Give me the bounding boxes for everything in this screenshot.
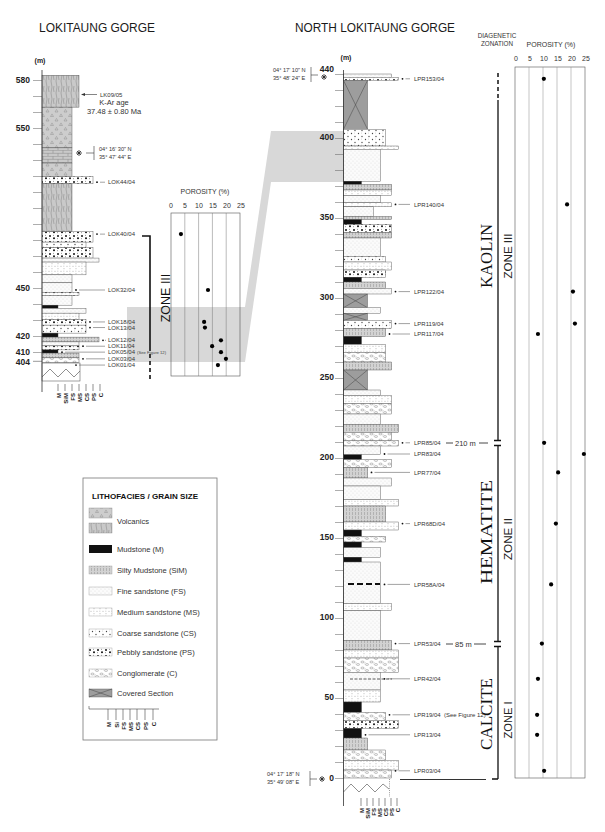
porosity-point [565, 202, 569, 206]
legend-label: Pebbly sandstone (PS) [117, 648, 195, 657]
bed-fine [344, 149, 381, 181]
volcanic-hatch-swatch [89, 523, 112, 533]
porosity-plot-frame [515, 67, 585, 778]
boundary-label: 210 m [455, 439, 476, 448]
grain-label: Si [114, 722, 120, 728]
zone-label-iii: ZONE III [502, 234, 514, 279]
sample-label: LPR13/04 [414, 732, 441, 738]
bed-mud [344, 277, 362, 282]
sample-label: LPR153/04 [414, 76, 445, 82]
asterisk-icon [76, 150, 82, 156]
porosity-point [571, 290, 575, 294]
grain-label: MS [77, 393, 83, 402]
legend-item-fine-sandstone: Fine sandstone (FS) [89, 587, 186, 596]
sample-label: LPR85/04 [414, 440, 441, 446]
depth-label: 440 [320, 64, 334, 74]
porosity-point [179, 232, 183, 236]
sample-point-icon [402, 78, 404, 80]
legend-title: LITHOFACIES / GRAIN SIZE [92, 492, 199, 501]
bed-mud [344, 220, 362, 225]
porosity-point [203, 325, 207, 329]
bed-volcanic-tri [42, 163, 72, 177]
bed-silty [344, 640, 392, 650]
bed-medium [344, 190, 392, 196]
legend-label: Volcanics [117, 517, 149, 526]
depth-label: 300 [320, 292, 334, 302]
bed-fine [42, 275, 72, 283]
volcanic-tri-swatch [89, 508, 112, 518]
bed-fine [344, 672, 381, 690]
sample-point-icon [89, 327, 91, 329]
medium-sandstone-swatch [89, 608, 112, 616]
asterisk-icon [319, 776, 325, 782]
silty-mudstone-swatch [89, 566, 112, 574]
longitude: 35° 48' 24" E [273, 75, 306, 81]
zone-boundary-85m: 85 m [446, 640, 486, 649]
bed-pebbly [42, 232, 93, 242]
legend-item-mudstone: Mudstone (M) [89, 545, 164, 554]
porosity-title: POROSITY (%) [181, 188, 230, 196]
bed-pebbly [344, 270, 386, 277]
bed-fine [42, 283, 72, 293]
bed-pebbly [344, 224, 392, 232]
sample-point-icon [395, 204, 397, 206]
bed-fine [344, 414, 381, 424]
sample-point-icon [395, 770, 397, 772]
depth-label: 550 [16, 123, 30, 133]
kar-age-annotation: LK09/05 K-Ar age 37.48 ± 0.80 Ma [81, 92, 142, 117]
sample-note: (See Figure 12) [137, 350, 167, 355]
bed-medium [344, 604, 392, 611]
bed-conglomerate [344, 352, 386, 362]
porosity-tick: 20 [568, 55, 576, 62]
sample-label: LPR03/04 [414, 768, 441, 774]
north-coordinates-base: 04° 17' 18" N 35° 49' 08" E [267, 771, 325, 786]
sample-point-icon [389, 714, 391, 716]
bed-fine [344, 74, 392, 77]
bed-fine [344, 238, 381, 256]
zone-line [492, 100, 501, 779]
bed-medium [344, 146, 399, 149]
bed-mud [42, 305, 58, 308]
porosity-point [206, 288, 210, 292]
bed-fine [344, 288, 392, 294]
asterisk-icon [321, 74, 327, 80]
depth-label: 100 [320, 612, 334, 622]
porosity-point [210, 344, 214, 348]
longitude: 35° 49' 08" E [267, 779, 300, 785]
bed-mud [344, 557, 362, 562]
base-unexposed [42, 363, 80, 381]
sample-point-icon [395, 643, 397, 645]
bed-silty [344, 328, 386, 336]
bed-fine [344, 207, 374, 217]
bed-pebbly [42, 177, 93, 184]
porosity-point [542, 77, 546, 81]
porosity-point [556, 470, 560, 474]
grain-label: CS [135, 722, 141, 730]
boundary-label: 85 m [455, 640, 472, 649]
depth-label: 410 [16, 347, 30, 357]
bed-mud [42, 350, 58, 353]
porosity-point [582, 452, 586, 456]
sample-point-icon [61, 351, 63, 353]
bed-silty [42, 337, 99, 342]
legend-label: Fine sandstone (FS) [117, 587, 186, 596]
bed-medium [344, 262, 392, 270]
legend-label: Conglomerate (C) [117, 669, 178, 678]
sample-point-icon [371, 472, 373, 474]
sample-point-icon [384, 453, 386, 455]
base-unexposed [344, 779, 390, 796]
bed-pebbly [344, 77, 399, 80]
sample-point-icon [395, 291, 397, 293]
bed-conglomerate [344, 536, 386, 542]
lithofacies-legend: LITHOFACIES / GRAIN SIZE Volcanics Mudst… [83, 478, 217, 740]
porosity-point [219, 350, 223, 354]
grain-label: FS [70, 393, 76, 401]
porosity-point [219, 338, 223, 342]
depth-label: 404 [16, 357, 30, 367]
mineral-label-hematite: HEMATITE [477, 480, 496, 584]
bed-medium [344, 500, 399, 506]
bed-silty [344, 362, 392, 370]
correlation-band [127, 131, 344, 362]
latitude: 04° 16' 30" N [99, 146, 132, 152]
sample-label: LOK44/04 [108, 179, 136, 185]
